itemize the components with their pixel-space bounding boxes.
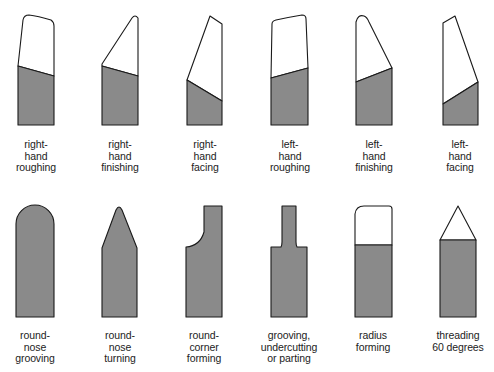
tool-round-corner-forming (186, 206, 222, 317)
label-line: grooving, (244, 330, 334, 342)
label-line: round- (159, 330, 249, 342)
label-line: finishing (75, 162, 165, 174)
tool-radius-forming (355, 206, 392, 317)
label-right-hand-facing: right- hand facing (160, 139, 250, 174)
label-line: or parting (244, 353, 334, 365)
label-line: facing (415, 162, 494, 174)
label-line: left- (329, 139, 419, 151)
tool-left-hand-finishing (356, 16, 392, 125)
tool-round-nose-turning (102, 207, 137, 317)
label-line: round- (0, 330, 80, 342)
label-line: turning (75, 353, 165, 365)
label-line: 60 degrees (413, 342, 494, 354)
label-round-corner-forming: round- corner forming (159, 330, 249, 365)
tool-left-hand-roughing (271, 15, 308, 125)
label-line: facing (160, 162, 250, 174)
label-line: threading (413, 330, 494, 342)
label-line: roughing (0, 162, 81, 174)
label-line: radius (328, 330, 418, 342)
label-right-hand-finishing: right- hand finishing (75, 139, 165, 174)
label-line: finishing (329, 162, 419, 174)
label-line: left- (415, 139, 494, 151)
label-line: forming (159, 353, 249, 365)
label-right-hand-roughing: right- hand roughing (0, 139, 81, 174)
label-line: right- (75, 139, 165, 151)
label-line: right- (160, 139, 250, 151)
tool-right-hand-roughing (18, 15, 54, 125)
tool-right-hand-facing (187, 16, 222, 125)
label-left-hand-finishing: left- hand finishing (329, 139, 419, 174)
tool-round-nose-grooving (16, 205, 54, 317)
label-line: roughing (245, 162, 335, 174)
label-line: grooving (0, 353, 80, 365)
label-line: left- (245, 139, 335, 151)
label-line: forming (328, 342, 418, 354)
tool-grooving-undercutting-parting (271, 206, 307, 317)
tool-left-hand-facing (443, 16, 478, 125)
label-radius-forming: radius forming (328, 330, 418, 353)
label-left-hand-roughing: left- hand roughing (245, 139, 335, 174)
tool-threading-60-degrees (440, 206, 476, 317)
label-round-nose-turning: round- nose turning (75, 330, 165, 365)
label-left-hand-facing: left- hand facing (415, 139, 494, 174)
tool-right-hand-finishing (102, 16, 138, 125)
label-round-nose-grooving: round- nose grooving (0, 330, 80, 365)
lathe-tool-diagram (0, 0, 494, 372)
label-threading-60-degrees: threading 60 degrees (413, 330, 494, 353)
label-line: right- (0, 139, 81, 151)
label-grooving-undercutting-parting: grooving, undercutting or parting (244, 330, 334, 365)
label-line: round- (75, 330, 165, 342)
